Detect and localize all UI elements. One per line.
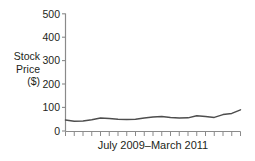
y-axis-title-line-2: Price	[0, 63, 40, 76]
x-axis-title: July 2009–March 2011	[65, 139, 241, 151]
y-tick-label-400: 400	[24, 32, 60, 43]
chart-figure: 500 400 300 200 100 0 Stock Price ($) Ju…	[0, 0, 255, 161]
y-axis-title-line-1: Stock	[0, 50, 40, 63]
y-axis-title-line-3: ($)	[0, 75, 40, 88]
y-tick-label-100: 100	[24, 102, 60, 113]
y-tick-label-500: 500	[24, 9, 60, 20]
y-tick-label-0: 0	[24, 126, 60, 137]
y-axis-title: Stock Price ($)	[0, 50, 40, 88]
stock-price-line	[66, 110, 241, 121]
x-axis-ticks	[66, 132, 241, 137]
